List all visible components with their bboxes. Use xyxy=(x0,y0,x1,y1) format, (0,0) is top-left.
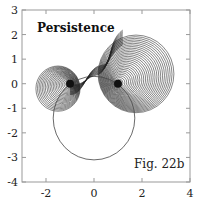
x-tick-label: 2 xyxy=(139,187,146,200)
x-tick-label: 0 xyxy=(91,187,98,200)
y-tick-label: 1 xyxy=(11,53,18,66)
y-tick-label: -1 xyxy=(7,102,18,115)
y-tick-label: 3 xyxy=(11,4,18,17)
plot-svg: -20243210-1-2-3-4 Persistence Fig. 22b xyxy=(0,0,199,204)
y-tick-label: -2 xyxy=(7,127,18,140)
figure-label: Fig. 22b xyxy=(134,157,185,171)
vortex-point xyxy=(66,80,74,88)
large-circle xyxy=(53,76,135,160)
y-tick-label: -4 xyxy=(7,176,18,189)
right-vortex-circle-family xyxy=(98,35,174,113)
y-tick-label: 2 xyxy=(11,29,18,42)
x-tick-label: 4 xyxy=(187,187,194,200)
chart-title: Persistence xyxy=(37,21,115,35)
x-tick-label: -2 xyxy=(41,187,52,200)
y-tick-label: -3 xyxy=(7,151,18,164)
chart-figure: -20243210-1-2-3-4 Persistence Fig. 22b xyxy=(0,0,199,204)
y-tick-label: 0 xyxy=(11,78,18,91)
vortex-point xyxy=(114,80,122,88)
curve-families xyxy=(36,30,174,160)
